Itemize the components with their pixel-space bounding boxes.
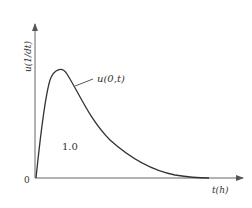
curve-label: u(0,t) — [97, 73, 125, 84]
diagram-root: u(0,t) 1.0 0 t(h) u(1/dt) — [0, 0, 252, 208]
curve-label-leader — [75, 79, 93, 86]
unit-hydrograph-curve — [36, 69, 209, 178]
origin-label: 0 — [24, 175, 30, 185]
area-label: 1.0 — [62, 141, 78, 152]
y-axis-label: u(1/dt) — [23, 41, 33, 72]
x-axis-label: t(h) — [212, 185, 229, 195]
hydrograph-figure: u(0,t) 1.0 0 t(h) u(1/dt) — [0, 0, 252, 208]
